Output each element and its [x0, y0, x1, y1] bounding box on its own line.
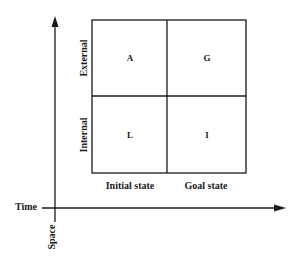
- diagram-canvas: [0, 0, 299, 266]
- row-label-external: External: [79, 39, 89, 76]
- cell-internal-initial: L: [127, 131, 133, 140]
- axis-label-space: Space: [47, 225, 57, 250]
- cell-internal-goal: I: [205, 131, 209, 140]
- column-label-initial-state: Initial state: [106, 181, 155, 191]
- cell-external-initial: A: [127, 54, 134, 63]
- row-label-internal: Internal: [79, 118, 89, 153]
- cell-external-goal: G: [203, 54, 210, 63]
- column-label-goal-state: Goal state: [184, 181, 227, 191]
- horizontal-axis-arrow-icon: [274, 205, 286, 212]
- axis-label-time: Time: [15, 202, 37, 212]
- vertical-axis-arrow-icon: [52, 16, 59, 27]
